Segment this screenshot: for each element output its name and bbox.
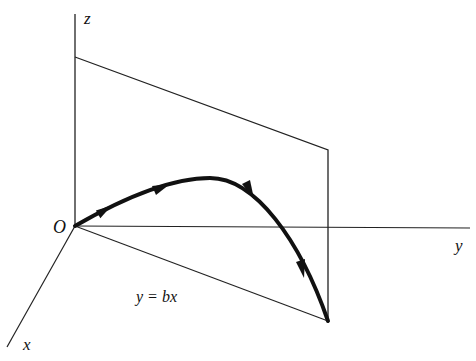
x-axis-label: x (23, 336, 31, 353)
diagram-canvas (0, 0, 476, 361)
origin-label: O (53, 218, 66, 236)
curve-arrow-icon (96, 206, 113, 219)
x-axis (7, 226, 75, 347)
plane-trace-label: y = bx (136, 289, 177, 305)
vertical-plane-outline (75, 57, 328, 321)
z-axis-label: z (84, 10, 91, 27)
y-axis-label: y (455, 237, 463, 254)
y-axis (75, 226, 470, 228)
curve-arrow-icon (152, 184, 170, 195)
curve-arrow-icon (296, 259, 305, 278)
curve-path (75, 178, 328, 321)
